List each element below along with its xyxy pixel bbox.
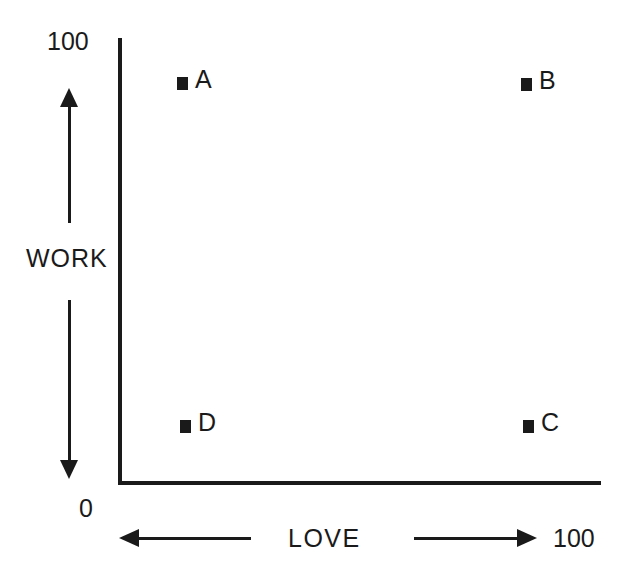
cropped-caption-remnant bbox=[118, 0, 318, 2]
square-marker-icon bbox=[177, 77, 188, 90]
data-point-b: B bbox=[521, 72, 556, 97]
x-axis-right-arrow-shaft bbox=[414, 537, 524, 540]
data-point-label: D bbox=[198, 410, 216, 435]
y-axis-min-label: 0 bbox=[79, 496, 93, 521]
x-axis-line bbox=[118, 481, 601, 485]
data-point-a: A bbox=[177, 71, 212, 96]
x-axis-max-label: 100 bbox=[553, 526, 595, 551]
data-point-label: C bbox=[541, 410, 559, 435]
y-axis-title: WORK bbox=[26, 246, 108, 271]
data-point-label: A bbox=[195, 67, 212, 92]
love-work-quadrant-chart: 100 0 WORK LOVE 100 A B C D bbox=[0, 0, 622, 569]
arrow-right-icon bbox=[517, 529, 537, 547]
arrow-down-icon bbox=[60, 460, 78, 479]
x-axis-title: LOVE bbox=[288, 526, 361, 551]
x-axis-left-arrow-shaft bbox=[137, 537, 251, 540]
square-marker-icon bbox=[521, 78, 532, 91]
y-axis-max-label: 100 bbox=[47, 29, 89, 54]
arrow-left-icon bbox=[119, 529, 139, 547]
y-axis-line bbox=[118, 38, 122, 485]
y-axis-down-arrow-shaft bbox=[68, 300, 71, 463]
square-marker-icon bbox=[180, 420, 191, 433]
square-marker-icon bbox=[523, 420, 534, 433]
data-point-label: B bbox=[539, 68, 556, 93]
data-point-d: D bbox=[180, 414, 216, 439]
y-axis-up-arrow-shaft bbox=[68, 104, 71, 223]
data-point-c: C bbox=[523, 414, 559, 439]
